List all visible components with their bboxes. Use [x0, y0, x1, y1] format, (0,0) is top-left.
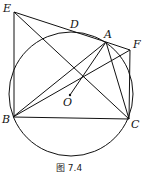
segment-fc — [129, 50, 130, 119]
segment-ea — [14, 12, 106, 42]
figure-caption: 图 7.4 — [56, 163, 82, 173]
label-e: E — [2, 2, 11, 15]
segment-bc — [13, 117, 129, 119]
label-c: C — [131, 118, 140, 131]
geometry-figure: E D A F O B C 图 7.4 — [0, 0, 144, 174]
label-d: D — [69, 18, 79, 31]
label-o: O — [63, 96, 72, 109]
label-b: B — [1, 113, 10, 126]
label-a: A — [103, 28, 112, 41]
segment-ba — [13, 42, 106, 117]
label-f: F — [132, 38, 141, 51]
